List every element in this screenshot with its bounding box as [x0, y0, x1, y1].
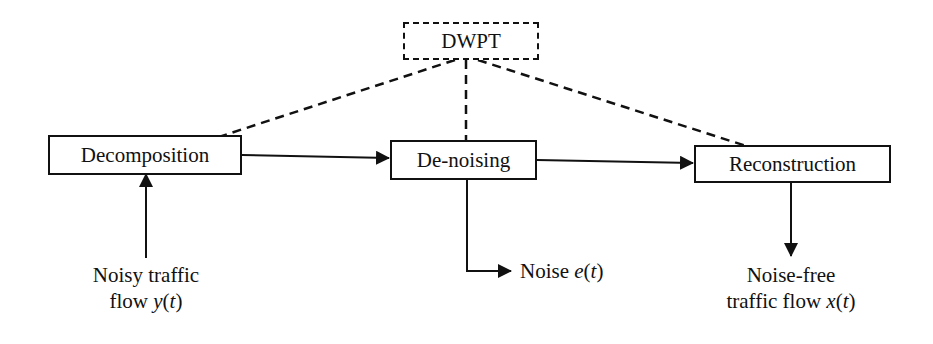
clean-signal-label: Noise-free traffic flow x(t) [706, 262, 876, 314]
noise-output-label: Noise e(t) [520, 258, 603, 284]
output-label-line2: traffic flow x(t) [706, 288, 876, 314]
denoising-to-reconstruction-arrow [537, 160, 693, 163]
decomposition-to-denoising-arrow [242, 155, 389, 158]
input-signal-label: Noisy traffic flow y(t) [66, 262, 226, 314]
dwpt-label: DWPT [441, 29, 501, 54]
reconstruction-node: Reconstruction [694, 145, 891, 183]
dwpt-node: DWPT [403, 22, 539, 60]
input-label-line1: Noisy traffic [66, 262, 226, 288]
input-label-line2: flow y(t) [66, 288, 226, 314]
denoising-to-noise-arrow [467, 180, 511, 271]
output-label-line1: Noise-free [706, 262, 876, 288]
decomposition-label: Decomposition [81, 143, 209, 168]
reconstruction-label: Reconstruction [729, 152, 856, 177]
decomposition-node: Decomposition [48, 135, 242, 175]
denoising-label: De-noising [417, 148, 510, 173]
denoising-node: De-noising [390, 140, 537, 180]
